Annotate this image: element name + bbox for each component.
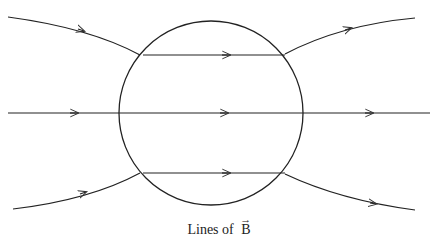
caption-prefix: Lines of — [187, 222, 233, 237]
diagram-caption: Lines of → B — [0, 222, 438, 238]
vector-b: → B — [241, 222, 250, 238]
field-diagram — [0, 0, 438, 247]
field-line-top — [8, 17, 415, 55]
vector-arrow-icon: → — [240, 213, 251, 225]
